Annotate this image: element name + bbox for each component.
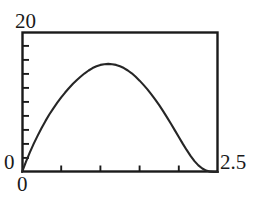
y-axis-max-label: 20 <box>15 11 36 32</box>
x-axis-min-label: 0 <box>17 174 28 195</box>
y-axis-min-label: 0 <box>4 152 15 173</box>
plot-area <box>0 0 257 203</box>
x-axis-max-label: 2.5 <box>220 152 246 173</box>
chart-figure: 20 0 0 2.5 <box>0 0 257 203</box>
